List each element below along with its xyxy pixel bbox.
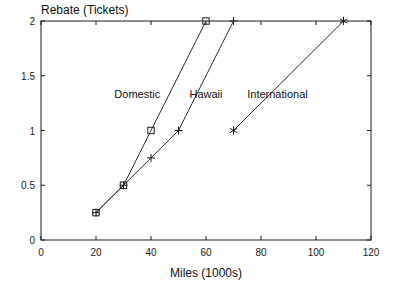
x-tick-label: 120 xyxy=(363,247,380,258)
x-tick-label: 80 xyxy=(255,247,267,258)
x-tick-label: 100 xyxy=(308,247,325,258)
series-label-domestic: Domestic xyxy=(114,88,160,100)
series-markers-group xyxy=(92,17,347,217)
x-tick-label: 20 xyxy=(90,247,102,258)
y-tick-label: 1.5 xyxy=(21,71,35,82)
x-tick-label: 0 xyxy=(38,247,44,258)
line-chart: Rebate (Tickets) Miles (1000s) 020406080… xyxy=(0,0,395,285)
series-label-international: International xyxy=(247,88,308,100)
y-tick-label: 1 xyxy=(29,126,35,137)
series-line-international xyxy=(234,21,344,131)
series-labels-group: DomesticHawaiiInternational xyxy=(114,88,307,100)
y-tick-label: 0 xyxy=(29,235,35,246)
series-line-hawaii xyxy=(96,21,234,213)
chart-container: Rebate (Tickets) Miles (1000s) 020406080… xyxy=(0,0,395,285)
series-label-hawaii: Hawaii xyxy=(189,88,222,100)
x-tick-label: 40 xyxy=(145,247,157,258)
x-tick-label: 60 xyxy=(200,247,212,258)
y-axis-title: Rebate (Tickets) xyxy=(41,3,129,17)
y-tick-label: 0.5 xyxy=(21,180,35,191)
plot-frame xyxy=(41,21,371,240)
series-line-domestic xyxy=(96,21,206,213)
x-axis-ticks: 020406080100120 xyxy=(38,21,380,258)
series-lines-group xyxy=(96,21,344,213)
y-axis-ticks: 00.511.52 xyxy=(21,16,371,246)
x-axis-title: Miles (1000s) xyxy=(170,266,242,280)
y-tick-label: 2 xyxy=(29,16,35,27)
